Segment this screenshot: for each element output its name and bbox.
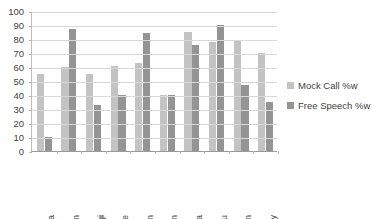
y-axis-tick-50: 50 <box>13 77 24 87</box>
legend-swatch-icon-free-speech <box>287 102 294 109</box>
bar <box>94 105 101 151</box>
y-tickmark <box>29 110 32 111</box>
legend-item-free-speech: Free Speech %w <box>287 100 386 111</box>
chart-legend: Mock Call %w Free Speech %w <box>287 80 386 120</box>
x-tickmark <box>57 151 58 154</box>
plot-area <box>31 12 277 152</box>
y-tickmark <box>29 12 32 13</box>
gridline <box>32 82 277 83</box>
legend-swatch-icon-mock-call <box>287 82 294 89</box>
bar <box>69 29 76 151</box>
x-axis-category-labels: AkshataAshwinGargiJasmineKartikeyanKiran… <box>31 155 277 219</box>
y-axis-tick-90: 90 <box>13 21 24 31</box>
y-tickmark <box>29 54 32 55</box>
gridline <box>32 124 277 125</box>
x-axis-label-vijay: Vijay <box>269 215 278 219</box>
x-tickmark <box>278 151 279 154</box>
x-tickmark <box>180 151 181 154</box>
bar <box>160 95 167 151</box>
bar <box>86 74 93 151</box>
x-axis-label-jasmine: Jasmine <box>121 215 130 219</box>
y-axis-tick-80: 80 <box>13 35 24 45</box>
y-tickmark <box>29 26 32 27</box>
legend-item-mock-call: Mock Call %w <box>287 80 386 91</box>
legend-label-free-speech: Free Speech %w <box>298 101 370 111</box>
y-tickmark <box>29 138 32 139</box>
y-axis-tick-30: 30 <box>13 105 24 115</box>
y-axis-tick-70: 70 <box>13 49 24 59</box>
x-axis-label-sharan: Sharan <box>244 215 253 219</box>
gridline <box>32 12 277 13</box>
bar-chart: 1009080706050403020100 AkshataAshwinGarg… <box>0 0 386 219</box>
x-axis-label-kiran: Kiran <box>170 215 179 219</box>
bar <box>184 32 191 151</box>
bar <box>37 74 44 151</box>
y-tickmark <box>29 82 32 83</box>
bar <box>168 95 175 151</box>
y-axis-tick-100: 100 <box>8 7 24 17</box>
x-tickmark <box>253 151 254 154</box>
x-tickmark <box>130 151 131 154</box>
x-axis-label-akshata: Akshata <box>47 215 56 219</box>
x-axis-label-ashwin: Ashwin <box>72 215 81 219</box>
x-tickmark <box>229 151 230 154</box>
bar <box>143 33 150 151</box>
gridline <box>32 68 277 69</box>
x-axis-label-sanju: Sanju <box>220 215 229 219</box>
bar <box>217 25 224 151</box>
y-tickmark <box>29 40 32 41</box>
y-axis-tick-labels: 1009080706050403020100 <box>0 0 27 219</box>
y-tickmark <box>29 96 32 97</box>
y-tickmark <box>29 68 32 69</box>
gridline <box>32 96 277 97</box>
x-tickmark <box>106 151 107 154</box>
gridline <box>32 26 277 27</box>
y-axis-tick-0: 0 <box>19 147 24 157</box>
bar <box>192 45 199 151</box>
x-tickmark <box>81 151 82 154</box>
y-axis-tick-40: 40 <box>13 91 24 101</box>
y-axis-tick-20: 20 <box>13 119 24 129</box>
x-tickmark <box>204 151 205 154</box>
gridline <box>32 54 277 55</box>
bar <box>118 95 125 151</box>
y-axis-tick-10: 10 <box>13 133 24 143</box>
legend-label-mock-call: Mock Call %w <box>298 81 358 91</box>
x-tickmark <box>155 151 156 154</box>
y-tickmark <box>29 124 32 125</box>
chart-plot-wrapper: 1009080706050403020100 AkshataAshwinGarg… <box>0 0 386 219</box>
gridline <box>32 138 277 139</box>
y-axis-tick-60: 60 <box>13 63 24 73</box>
x-axis-label-gargi: Gargi <box>97 215 106 219</box>
gridline <box>32 40 277 41</box>
bar <box>45 137 52 151</box>
y-tickmark <box>29 152 32 153</box>
x-axis-label-kartikeyan: Kartikeyan <box>146 215 155 219</box>
x-axis-label-ravindra: Ravindra <box>195 215 204 219</box>
gridline <box>32 110 277 111</box>
